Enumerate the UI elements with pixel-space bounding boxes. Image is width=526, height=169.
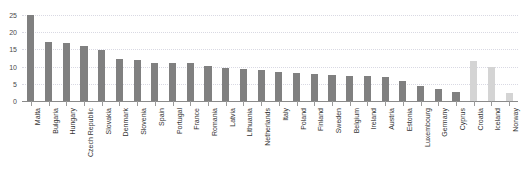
x-axis-tick xyxy=(102,101,103,106)
x-axis-tick xyxy=(314,101,315,106)
x-axis-tick xyxy=(474,101,475,106)
x-axis-tick xyxy=(155,101,156,106)
y-axis-tick-label: 10 xyxy=(9,63,17,70)
x-axis-tick xyxy=(350,101,351,106)
y-axis: 0510152025 xyxy=(0,8,20,101)
x-axis-tick xyxy=(208,101,209,106)
x-axis-tick xyxy=(84,101,85,106)
x-axis-category-label: Czech Republic xyxy=(87,57,94,107)
bar-slot xyxy=(151,8,158,101)
x-axis-tick xyxy=(190,101,191,106)
x-axis-tick xyxy=(421,101,422,106)
x-axis-tick xyxy=(297,101,298,106)
x-axis-tick xyxy=(438,101,439,106)
bar-slot xyxy=(275,8,282,101)
x-axis-category-label: Croatia xyxy=(477,83,484,107)
x-axis-tick xyxy=(403,101,404,106)
y-axis-tick-label: 5 xyxy=(13,80,17,87)
x-axis-category-label: Norway xyxy=(512,82,519,107)
x-axis-tick xyxy=(49,101,50,106)
x-axis-category-label: Slovenia xyxy=(140,79,147,107)
x-axis-category-label: Luxembourg xyxy=(424,67,431,107)
y-axis-tick-label: 25 xyxy=(9,11,17,18)
x-axis-tick xyxy=(456,101,457,106)
x-axis-category-label: Cyprus xyxy=(459,84,466,107)
x-axis-tick xyxy=(226,101,227,106)
x-axis-tick xyxy=(491,101,492,106)
x-axis-category-label: Romania xyxy=(211,78,218,107)
x-axis-category-label: Latvia xyxy=(229,87,236,107)
bar-chart: 0510152025 MaltaBulgariaHungaryCzech Rep… xyxy=(0,0,526,169)
x-axis-category-label: Belgium xyxy=(353,81,360,107)
y-axis-tick-label: 15 xyxy=(9,46,17,53)
x-axis-category-label: Germany xyxy=(441,77,448,107)
x-axis-tick xyxy=(385,101,386,106)
x-axis-category-label: Netherlands xyxy=(264,68,271,107)
y-axis-tick-label: 0 xyxy=(13,98,17,105)
chart-title xyxy=(155,0,375,4)
x-axis-category-label: Sweden xyxy=(335,81,342,107)
x-axis-tick xyxy=(119,101,120,106)
x-axis-tick xyxy=(261,101,262,106)
x-axis-tick xyxy=(279,101,280,106)
x-axis-tick xyxy=(31,101,32,106)
x-axis-tick xyxy=(509,101,510,106)
x-axis-category-label: Hungary xyxy=(69,80,76,107)
x-axis-tick xyxy=(332,101,333,106)
x-axis-category-label: Lithuania xyxy=(246,78,253,107)
x-axis-tick xyxy=(173,101,174,106)
x-axis-category-label: Portugal xyxy=(176,80,183,107)
x-axis-category-label: Austria xyxy=(388,84,395,107)
x-axis-category-label: Finland xyxy=(317,83,324,107)
x-axis-category-label: Malta xyxy=(34,89,41,107)
bar-slot xyxy=(27,8,34,101)
x-axis-category-label: Bulgaria xyxy=(52,80,59,107)
x-axis-category-label: Poland xyxy=(300,84,307,107)
x-axis-category-label: Denmark xyxy=(122,78,129,107)
x-axis-category-label: Spain xyxy=(158,88,165,107)
x-axis-category-label: Ireland xyxy=(370,85,377,107)
y-axis-tick-label: 20 xyxy=(9,29,17,36)
x-axis-category-label: Italy xyxy=(282,93,289,107)
x-axis-tick xyxy=(137,101,138,106)
x-axis-category-label: Estonia xyxy=(406,83,413,107)
x-axis-tick xyxy=(243,101,244,106)
x-axis-tick xyxy=(66,101,67,106)
x-axis-tick xyxy=(367,101,368,106)
x-axis-category-label: France xyxy=(193,84,200,107)
x-axis-category-label: Iceland xyxy=(494,83,501,107)
x-axis: MaltaBulgariaHungaryCzech RepublicSlovak… xyxy=(22,101,518,169)
x-axis-category-label: Slovakia xyxy=(105,80,112,107)
